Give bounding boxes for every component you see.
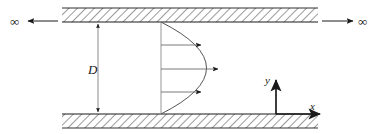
top-wall — [62, 8, 318, 22]
channel-flow-diagram: ∞ ∞ D y x — [0, 0, 380, 134]
figure-container: ∞ ∞ D y x — [0, 0, 380, 134]
infinity-right-label: ∞ — [358, 14, 367, 29]
top-wall-hatch — [62, 8, 318, 22]
y-axis-label: y — [264, 74, 270, 86]
infinity-left-label: ∞ — [10, 14, 19, 29]
velocity-profile — [161, 22, 218, 114]
x-axis-label: x — [309, 100, 315, 112]
bottom-wall — [62, 114, 318, 128]
profile-parabola-curve — [161, 22, 207, 114]
far-field-left: ∞ — [10, 14, 58, 29]
diameter-dimension: D — [87, 24, 98, 112]
bottom-wall-hatch — [62, 114, 318, 128]
far-field-right: ∞ — [322, 14, 367, 29]
coordinate-axes: y x — [264, 74, 320, 114]
diameter-label: D — [87, 62, 98, 77]
